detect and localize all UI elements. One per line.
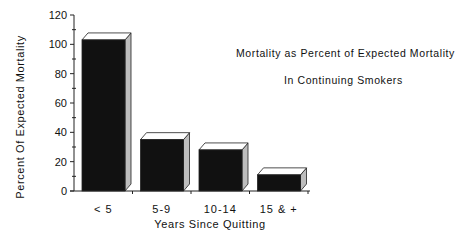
y-axis: 020406080100120 (49, 9, 76, 197)
y-tick-label: 120 (49, 9, 67, 21)
y-tick-label: 100 (49, 38, 67, 50)
y-tick-label: 20 (55, 156, 67, 168)
bar (141, 133, 190, 191)
x-axis-title: Years Since Quitting (154, 218, 265, 230)
x-tick-label: < 5 (94, 203, 113, 215)
x-tick-label: 5-9 (152, 203, 171, 215)
x-tick-label: 15 & + (260, 203, 298, 215)
y-tick-label: 0 (61, 185, 67, 197)
bar (82, 33, 131, 191)
x-axis: < 55-910-1415 & + (70, 191, 310, 215)
y-tick-label: 80 (55, 68, 67, 80)
bar (199, 143, 248, 191)
y-tick-label: 60 (55, 97, 67, 109)
chart-title-line-2: In Continuing Smokers (284, 74, 403, 86)
chart-title-line-1: Mortality as Percent of Expected Mortali… (236, 47, 455, 59)
x-tick-label: 10-14 (204, 203, 237, 215)
y-axis-title: Percent Of Expected Mortality (14, 35, 26, 199)
bar (258, 168, 307, 191)
y-tick-label: 40 (55, 126, 67, 138)
